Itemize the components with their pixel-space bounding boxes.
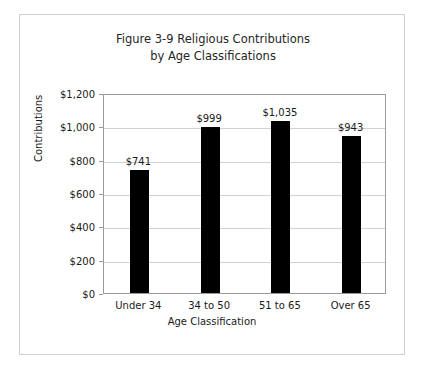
x-tick-label: Under 34	[115, 300, 161, 311]
y-tick-label: $0	[19, 289, 95, 300]
y-tick-label: $1,200	[19, 89, 95, 100]
y-tick-label: $200	[19, 255, 95, 266]
y-tick-mark	[99, 294, 103, 295]
bar-value-label: $943	[338, 122, 363, 133]
y-tick-label: $1,000	[19, 122, 95, 133]
chart-title-line-1: Figure 3-9 Religious Contributions	[40, 31, 386, 48]
y-tick-label: $400	[19, 222, 95, 233]
bar	[130, 170, 149, 294]
x-tick-label: 34 to 50	[188, 300, 230, 311]
bar	[271, 121, 290, 294]
bar-value-label: $741	[126, 156, 151, 167]
bar-value-label: $1,035	[262, 107, 297, 118]
y-tick-label: $600	[19, 189, 95, 200]
bar	[201, 127, 220, 294]
y-tick-label: $800	[19, 155, 95, 166]
x-axis-title: Age Classification	[20, 316, 404, 327]
bar	[342, 136, 361, 293]
chart-title-line-2: by Age Classifications	[40, 48, 386, 65]
figure-frame: Figure 3-9 Religious Contributions by Ag…	[19, 14, 405, 355]
x-tick-label: Over 65	[331, 300, 371, 311]
x-tick-label: 51 to 65	[259, 300, 301, 311]
bar-value-label: $999	[196, 113, 221, 124]
chart-title: Figure 3-9 Religious Contributions by Ag…	[40, 31, 386, 65]
